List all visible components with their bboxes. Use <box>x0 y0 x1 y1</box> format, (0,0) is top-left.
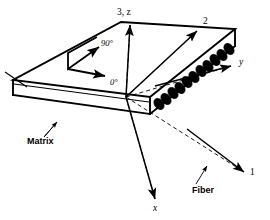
matrix-leader-arrow <box>44 122 57 137</box>
angle-label-0: 0° <box>110 77 118 87</box>
fiber-label: Fiber <box>192 185 215 195</box>
fiber-leader-line <box>196 166 207 184</box>
axis-arrow-1 <box>187 129 244 172</box>
axis-label-3z: 3, z <box>117 7 131 17</box>
matrix-label: Matrix <box>27 136 54 146</box>
composite-lamina-diagram: 3, z 2 y 1 x 90° 0° Matrix Fiber <box>0 0 270 220</box>
axis-label-x: x <box>152 203 158 213</box>
axis-label-2: 2 <box>203 16 208 26</box>
angle-label-90: 90° <box>101 38 114 48</box>
diagram-svg: 3, z 2 y 1 x 90° 0° Matrix Fiber <box>0 0 270 220</box>
axis-label-1: 1 <box>250 167 255 177</box>
axis-label-y: y <box>238 57 244 67</box>
lamina-slab <box>5 22 236 114</box>
